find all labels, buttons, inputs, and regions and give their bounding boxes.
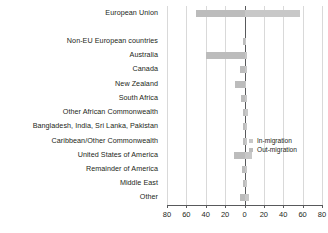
bar-in-migration [245, 10, 300, 17]
bar-out-migration [206, 52, 245, 59]
bar-out-migration [240, 194, 245, 201]
category-label: Australia [130, 51, 158, 59]
gridline [264, 6, 265, 205]
category-label: South Africa [119, 94, 158, 102]
category-label: Remainder of America [86, 165, 158, 173]
bar-out-migration [243, 109, 245, 116]
x-axis-tick [186, 205, 187, 208]
x-axis-tick-label: 40 [196, 210, 216, 219]
bar-in-migration [245, 95, 248, 102]
category-label: New Zealand [115, 80, 158, 88]
legend-label-in-migration: In-migration [257, 136, 292, 145]
bar-out-migration [234, 152, 245, 159]
x-axis-tick-label: 20 [254, 210, 274, 219]
zero-axis-line [245, 6, 246, 205]
category-label: United States of America [78, 151, 158, 159]
bar-out-migration [240, 66, 245, 73]
gridline [206, 6, 207, 205]
bar-in-migration [245, 180, 248, 187]
x-axis-tick-label: 20 [215, 210, 235, 219]
gridline [167, 6, 168, 205]
category-label: Non-EU European countries [67, 37, 158, 45]
legend-swatch-out-migration [249, 148, 253, 152]
category-label-column: European UnionNon-EU European countriesA… [0, 0, 164, 205]
gridline [186, 6, 187, 205]
bar-out-migration [243, 123, 245, 130]
gridline [225, 6, 226, 205]
x-axis-tick [264, 205, 265, 208]
bar-in-migration [245, 123, 248, 130]
x-axis-tick-label: 60 [176, 210, 196, 219]
x-axis-tick [322, 205, 323, 208]
bar-in-migration [245, 109, 249, 116]
category-label: Canada [133, 65, 158, 73]
category-label: European Union [105, 9, 158, 17]
category-label: Other [140, 193, 158, 201]
gridline [322, 6, 323, 205]
x-axis-tick [303, 205, 304, 208]
legend-item-out-migration: Out-migration [249, 145, 297, 154]
plot-area [167, 6, 322, 205]
migration-chart: European UnionNon-EU European countriesA… [0, 0, 328, 233]
x-axis-tick [167, 205, 168, 208]
bar-in-migration [245, 52, 248, 59]
x-axis-tick-label: 80 [312, 210, 328, 219]
category-label: Caribbean/Other Commonwealth [52, 137, 158, 145]
bar-out-migration [196, 10, 244, 17]
x-axis-tick-label: 0 [235, 210, 255, 219]
gridline [303, 6, 304, 205]
x-axis-tick [206, 205, 207, 208]
bar-in-migration [245, 194, 250, 201]
x-axis-tick-label: 40 [273, 210, 293, 219]
category-label: Bangladesh, India, Sri Lanka, Pakistan [33, 122, 158, 130]
chart-legend: In-migration Out-migration [249, 136, 297, 154]
bar-out-migration [241, 95, 245, 102]
x-axis-tick-label: 60 [293, 210, 313, 219]
legend-item-in-migration: In-migration [249, 136, 297, 145]
category-label: Middle East [120, 179, 158, 187]
x-axis-tick [245, 205, 246, 208]
category-label: Other African Commonwealth [63, 108, 158, 116]
x-axis-tick [225, 205, 226, 208]
bar-in-migration [245, 81, 247, 88]
bar-in-migration [245, 66, 248, 73]
legend-label-out-migration: Out-migration [257, 145, 297, 154]
bar-in-migration [245, 166, 248, 173]
gridline [283, 6, 284, 205]
bar-out-migration [243, 138, 245, 145]
bar-in-migration [245, 38, 247, 45]
bar-out-migration [235, 81, 245, 88]
x-axis-tick [283, 205, 284, 208]
bar-out-migration [242, 166, 245, 173]
bar-out-migration [243, 180, 245, 187]
bar-out-migration [243, 38, 245, 45]
bar-in-migration [245, 138, 248, 145]
x-axis-tick-label: 80 [157, 210, 177, 219]
legend-swatch-in-migration [249, 139, 253, 143]
